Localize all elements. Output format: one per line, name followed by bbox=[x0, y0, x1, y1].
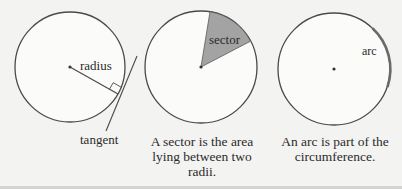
bottom-rule bbox=[0, 186, 402, 189]
sector-diagram bbox=[145, 11, 257, 123]
sector-caption: A sector is the area lying between two r… bbox=[146, 134, 258, 179]
radius-label: radius bbox=[80, 59, 112, 72]
sector-label: sector bbox=[209, 33, 240, 46]
radius-tangent-diagram bbox=[15, 12, 137, 131]
arc-label: arc bbox=[362, 45, 377, 57]
center-point-3 bbox=[332, 67, 335, 70]
center-point-2 bbox=[199, 65, 202, 68]
arc-diagram bbox=[278, 13, 390, 125]
tangent-label: tangent bbox=[80, 133, 118, 146]
arc-caption: An arc is part of the circumference. bbox=[272, 134, 398, 164]
